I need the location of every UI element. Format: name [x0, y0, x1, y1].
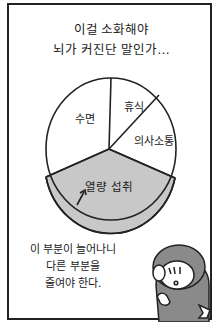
caption-line-1: 이 부분이 늘어나니 — [13, 241, 133, 258]
caption-line-3: 줄여야 한다. — [13, 275, 133, 292]
label-communication: 의사소통 — [134, 135, 174, 148]
comic-panel: 이걸 소화해야 뇌가 커진단 말인가… 수면 휴식 — [7, 3, 212, 320]
caption: 이 부분이 늘어나니 다른 부분을 줄여야 한다. — [13, 241, 133, 292]
label-rest: 휴식 — [124, 101, 144, 114]
monkey-character — [153, 245, 210, 322]
label-calorie: 열량 섭취 — [85, 180, 133, 194]
label-sleep: 수면 — [75, 113, 95, 126]
caption-line-2: 다른 부분을 — [13, 258, 133, 275]
